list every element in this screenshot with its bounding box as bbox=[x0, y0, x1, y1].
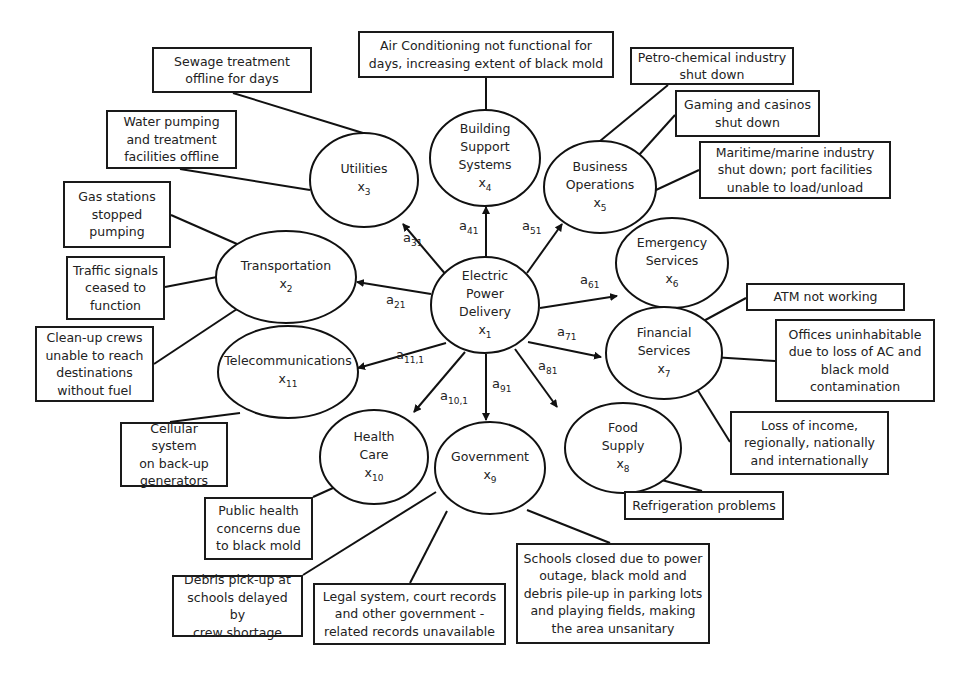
node-title-line: Services bbox=[646, 252, 699, 270]
node-x8-label: FoodSupplyx8 bbox=[565, 403, 681, 493]
node-title-line: Business bbox=[572, 158, 627, 176]
node-title-line: Financial bbox=[637, 324, 692, 342]
impact-box-b17: Petro-chemical industry shut down bbox=[630, 47, 794, 85]
coefficient-a21: a21 bbox=[386, 292, 405, 310]
impact-box-b3: Gas stations stopped pumping bbox=[63, 181, 171, 248]
coefficient-a31: a31 bbox=[403, 230, 422, 248]
node-title-line: Power bbox=[466, 285, 504, 303]
coefficient-a51: a51 bbox=[522, 218, 541, 236]
node-title-line: Building bbox=[460, 120, 511, 138]
node-x11-label: Telecommunicationsx11 bbox=[218, 326, 358, 418]
connector-line-b1 bbox=[233, 93, 363, 133]
node-title-line: Transportation bbox=[241, 257, 331, 275]
node-variable: x10 bbox=[365, 464, 384, 487]
node-x6-label: EmergencyServicesx6 bbox=[616, 218, 728, 308]
node-title-line: Supply bbox=[602, 437, 645, 455]
impact-box-b1: Sewage treatment offline for days bbox=[152, 47, 312, 93]
node-x2-label: Transportationx2 bbox=[216, 231, 356, 323]
coefficient-a61: a61 bbox=[580, 272, 599, 290]
impact-box-b15: Maritime/marine industry shut down; port… bbox=[699, 141, 891, 199]
coefficient-a81: a81 bbox=[538, 358, 557, 376]
coefficient-a41: a41 bbox=[459, 218, 478, 236]
coefficient-a71: a71 bbox=[557, 324, 576, 342]
node-title-line: Electric bbox=[462, 267, 508, 285]
node-title-line: Care bbox=[360, 446, 389, 464]
node-variable: x6 bbox=[665, 270, 678, 293]
node-x9-label: Governmentx9 bbox=[435, 422, 545, 514]
coefficient-a91: a91 bbox=[492, 376, 511, 394]
impact-box-b18: Air Conditioning not functional for days… bbox=[358, 31, 614, 78]
node-variable: x2 bbox=[279, 275, 292, 298]
node-title-line: Emergency bbox=[637, 234, 708, 252]
node-title-line: Food bbox=[608, 419, 638, 437]
impact-box-b13: Offices uninhabitable due to loss of AC … bbox=[775, 319, 935, 402]
node-title-line: Government bbox=[451, 448, 529, 466]
node-title-line: Delivery bbox=[459, 303, 511, 321]
node-title-line: Operations bbox=[566, 176, 635, 194]
influence-diagram: ElectricPowerDeliveryx1Transportationx2a… bbox=[0, 0, 961, 673]
node-variable: x5 bbox=[593, 194, 606, 217]
impact-box-b6: Cellular system on back-up generators bbox=[120, 422, 228, 487]
node-variable: x9 bbox=[483, 466, 496, 489]
node-x10-label: HealthCarex10 bbox=[320, 410, 428, 504]
impact-box-b5: Clean-up crews unable to reach destinati… bbox=[35, 326, 154, 402]
impact-box-b9: Legal system, court records and other go… bbox=[313, 583, 506, 645]
connector-line-b9 bbox=[410, 511, 447, 583]
node-x7-label: FinancialServicesx7 bbox=[606, 307, 722, 399]
node-variable: x1 bbox=[478, 321, 491, 344]
node-variable: x4 bbox=[478, 174, 491, 197]
node-title-line: Services bbox=[638, 342, 691, 360]
node-electric-power-delivery-label: ElectricPowerDeliveryx1 bbox=[431, 257, 539, 353]
connector-line-b15 bbox=[656, 170, 699, 190]
connector-line-b4 bbox=[165, 277, 217, 287]
connector-line-b17 bbox=[600, 85, 668, 141]
impact-box-b14: ATM not working bbox=[746, 283, 905, 311]
node-title-line: Telecommunications bbox=[224, 352, 352, 370]
node-title-line: Health bbox=[353, 428, 394, 446]
node-variable: x3 bbox=[357, 178, 370, 201]
node-title-line: Utilities bbox=[340, 160, 387, 178]
node-title-line: Systems bbox=[458, 156, 511, 174]
impact-box-b4: Traffic signals ceased to function bbox=[66, 256, 165, 320]
impact-box-b16: Gaming and casinos shut down bbox=[675, 90, 820, 137]
node-variable: x8 bbox=[616, 455, 629, 478]
node-x3-label: Utilitiesx3 bbox=[310, 133, 418, 227]
node-variable: x11 bbox=[279, 370, 298, 393]
impact-box-b2: Water pumping and treatment facilities o… bbox=[106, 110, 237, 169]
connector-line-b2 bbox=[180, 169, 310, 190]
impact-box-b12: Loss of income, regionally, nationally a… bbox=[730, 411, 889, 475]
coefficient-a10-1: a10,1 bbox=[440, 388, 468, 406]
impact-box-b11: Refrigeration problems bbox=[624, 491, 784, 520]
impact-box-b7: Public health concerns due to black mold bbox=[204, 497, 313, 560]
connector-line-b10 bbox=[527, 510, 610, 543]
node-x4-label: BuildingSupportSystemsx4 bbox=[430, 110, 540, 206]
node-title-line: Support bbox=[460, 138, 509, 156]
coefficient-a11-1: a11,1 bbox=[396, 347, 424, 365]
impact-box-b10: Schools closed due to power outage, blac… bbox=[516, 543, 710, 644]
node-variable: x7 bbox=[657, 360, 670, 383]
impact-box-b8: Debris pick-up at schools delayed by cre… bbox=[172, 575, 303, 637]
